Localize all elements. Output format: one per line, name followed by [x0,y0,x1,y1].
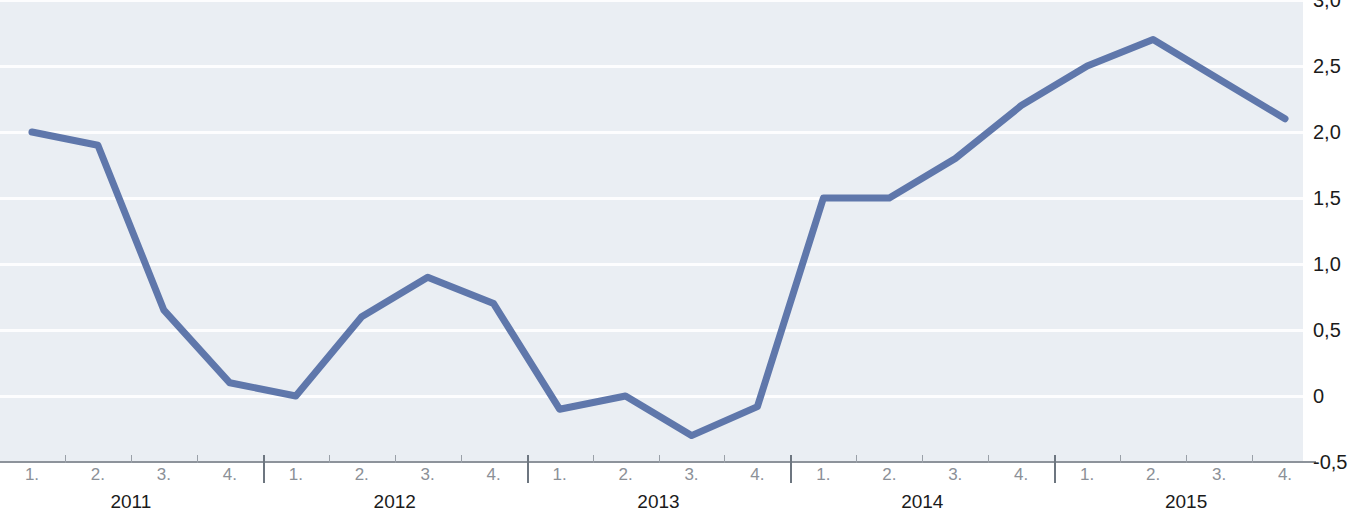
x-axis-quarter-label: 1. [12,466,52,483]
x-axis-quarter-label: 1. [803,466,843,483]
x-axis-tick [1186,455,1187,463]
x-axis-year-label: 2014 [862,492,982,511]
x-axis-quarter-label: 4. [210,466,250,483]
x-axis-tick [724,455,725,463]
x-axis-quarter-label: 2. [869,466,909,483]
x-axis-quarter-label: 2. [78,466,118,483]
y-axis-tick-label: 0,5 [1313,320,1341,340]
x-axis-tick [856,455,857,463]
x-axis-year-divider [527,455,529,483]
y-axis-tick-label: 1,5 [1313,188,1341,208]
x-axis-year-label: 2013 [599,492,719,511]
line-chart: 1.2.3.4.20111.2.3.4.20121.2.3.4.20131.2.… [0,0,1360,518]
x-axis-tick [329,455,330,463]
x-axis-quarter-label: 1. [276,466,316,483]
x-axis-year-divider [1054,455,1056,483]
x-axis-tick [461,455,462,463]
x-axis-year-label: 2012 [335,492,455,511]
x-axis-quarter-label: 4. [1265,466,1305,483]
y-axis-tick-label: -0,5 [1313,452,1347,472]
x-axis-quarter-label: 2. [606,466,646,483]
x-axis-quarter-label: 3. [1199,466,1239,483]
x-axis-tick [593,455,594,463]
x-axis-quarter-label: 3. [935,466,975,483]
x-axis-quarter-label: 3. [408,466,448,483]
x-axis-quarter-label: 1. [540,466,580,483]
x-axis-tick [659,455,660,463]
x-axis-quarter-label: 1. [1067,466,1107,483]
x-axis-quarter-label: 4. [474,466,514,483]
y-axis-tick-label: 3,0 [1313,0,1341,10]
x-axis-tick [1120,455,1121,463]
x-axis-year-label: 2015 [1126,492,1246,511]
x-axis-year-divider [263,455,265,483]
x-axis-tick [65,455,66,463]
x-axis-year-label: 2011 [71,492,191,511]
y-axis-tick-label: 2,5 [1313,56,1341,76]
x-axis-tick [131,455,132,463]
x-axis-quarter-label: 2. [1133,466,1173,483]
plot-area [0,0,1303,462]
x-axis-tick [988,455,989,463]
x-axis-year-divider [790,455,792,483]
x-axis-tick [395,455,396,463]
series-line [32,40,1285,436]
x-axis-quarter-label: 3. [671,466,711,483]
x-axis-tick [197,455,198,463]
x-axis-quarter-label: 4. [737,466,777,483]
x-axis-quarter-label: 2. [342,466,382,483]
y-axis-tick-label: 2,0 [1313,122,1341,142]
series-line-layer [0,0,1303,462]
x-axis-tick [922,455,923,463]
x-axis-quarter-label: 3. [144,466,184,483]
y-axis-tick-label: 0 [1313,386,1324,406]
x-axis-quarter-label: 4. [1001,466,1041,483]
y-axis: 3,02,52,01,51,00,50-0,5 [1303,0,1360,475]
x-axis-tick [1252,455,1253,463]
y-axis-tick-label: 1,0 [1313,254,1341,274]
